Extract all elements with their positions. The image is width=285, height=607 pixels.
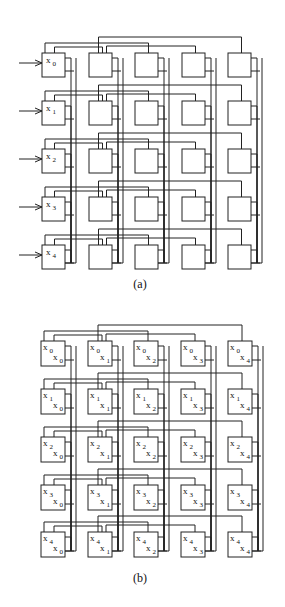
- wire: [252, 490, 258, 551]
- wire: [55, 95, 103, 101]
- wire: [65, 394, 71, 551]
- box-r0-c3: [182, 53, 205, 77]
- wire: [54, 431, 102, 437]
- wire: [205, 394, 211, 551]
- wire: [112, 490, 118, 551]
- wire: [252, 394, 258, 551]
- wire: [158, 58, 164, 263]
- wire: [205, 154, 211, 263]
- wire: [205, 58, 211, 263]
- wire: [205, 442, 211, 551]
- wire: [44, 475, 148, 485]
- wire: [107, 238, 196, 245]
- wire: [205, 537, 211, 551]
- wire: [99, 85, 242, 101]
- wire: [54, 335, 102, 341]
- wire: [65, 442, 71, 551]
- box-r4-c3: [182, 245, 205, 269]
- box-r2-c2: [135, 149, 158, 173]
- wire: [112, 202, 118, 263]
- wire: [65, 537, 71, 551]
- wire: [112, 537, 118, 551]
- box-r3-c2: [135, 197, 158, 221]
- wire: [65, 490, 71, 551]
- wire: [112, 442, 118, 551]
- wire: [55, 239, 103, 245]
- wire: [251, 58, 257, 263]
- box-r4-c1: [89, 245, 112, 269]
- wire: [251, 250, 257, 263]
- wire: [158, 250, 164, 263]
- box-r3-c3: [182, 197, 205, 221]
- wire: [54, 526, 102, 532]
- wire: [158, 490, 164, 551]
- wire: [252, 442, 258, 551]
- caption-a: (a): [120, 277, 160, 292]
- wire: [252, 537, 258, 551]
- wire: [107, 94, 196, 101]
- wire: [106, 430, 195, 437]
- wire: [55, 47, 103, 53]
- wire: [99, 229, 242, 245]
- wire: [205, 250, 211, 263]
- box-r3-c1: [89, 197, 112, 221]
- wire: [99, 133, 242, 149]
- wire: [205, 490, 211, 551]
- wire: [65, 202, 71, 263]
- wire: [45, 43, 149, 53]
- wire: [44, 379, 148, 389]
- wire: [98, 325, 242, 341]
- wire: [106, 478, 195, 485]
- wire: [158, 346, 164, 551]
- wire: [54, 383, 102, 389]
- wire: [54, 479, 102, 485]
- wire: [98, 373, 242, 389]
- wire: [45, 187, 149, 197]
- wire: [44, 522, 148, 532]
- wire: [106, 525, 195, 532]
- interconnect-diagram: x0x1x2x3x4x0x0x0x1x0x2x0x3x0x4x1x0x1x1x1…: [0, 0, 285, 607]
- box-r0-c2: [135, 53, 158, 77]
- wire: [65, 346, 71, 551]
- box-r2-c3: [182, 149, 205, 173]
- wire: [158, 154, 164, 263]
- box-r4-c4: [228, 245, 251, 269]
- wire: [252, 346, 258, 551]
- wire: [55, 143, 103, 149]
- wire: [107, 142, 196, 149]
- wire: [99, 181, 242, 197]
- box-r1-c3: [182, 101, 205, 125]
- wire: [205, 202, 211, 263]
- box-r1-c1: [89, 101, 112, 125]
- wire: [251, 106, 257, 263]
- wire: [44, 427, 148, 437]
- wire: [112, 346, 118, 551]
- wire: [106, 382, 195, 389]
- wire: [158, 106, 164, 263]
- box-r2-c1: [89, 149, 112, 173]
- box-r1-c4: [228, 101, 251, 125]
- wire: [112, 106, 118, 263]
- box-r0-c1: [89, 53, 112, 77]
- box-r3-c4: [228, 197, 251, 221]
- wire: [112, 154, 118, 263]
- box-r1-c2: [135, 101, 158, 125]
- wire: [99, 37, 242, 53]
- wire: [205, 346, 211, 551]
- wire: [251, 202, 257, 263]
- wire: [158, 202, 164, 263]
- wire: [65, 58, 71, 263]
- wire: [65, 154, 71, 263]
- box-r4-c2: [135, 245, 158, 269]
- wire: [98, 469, 242, 485]
- box-r0-c4: [228, 53, 251, 77]
- wire: [107, 46, 196, 53]
- wire: [205, 106, 211, 263]
- wire: [107, 190, 196, 197]
- wire: [98, 421, 242, 437]
- wire: [106, 334, 195, 341]
- wire: [158, 394, 164, 551]
- caption-b: (b): [120, 571, 160, 586]
- wire: [158, 442, 164, 551]
- wire: [45, 139, 149, 149]
